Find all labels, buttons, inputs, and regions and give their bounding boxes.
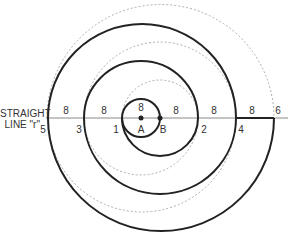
- segment-label: 8: [63, 105, 69, 116]
- point-label-b: B: [160, 124, 167, 135]
- point-label-a: A: [138, 124, 145, 135]
- step-label-4: 4: [238, 124, 244, 135]
- step-label-6: 6: [275, 105, 281, 116]
- segment-label: 8: [101, 105, 107, 116]
- segment-label: 8: [173, 105, 179, 116]
- step-label-1: 1: [113, 124, 119, 135]
- step-label-2: 2: [201, 124, 207, 135]
- step-label-3: 3: [76, 124, 82, 135]
- point-a: [139, 116, 144, 121]
- segment-label: 8: [211, 105, 217, 116]
- straight-line-title-line2: LINE "r": [0, 119, 47, 130]
- segment-label: 8: [249, 105, 255, 116]
- point-b: [158, 116, 163, 121]
- straight-line-title-line1: STRAIGHT: [0, 108, 47, 119]
- segment-label: 8: [138, 102, 144, 113]
- straight-line-title: STRAIGHT LINE "r": [0, 108, 47, 130]
- dashed-arc-outer-upper: [47, 5, 274, 119]
